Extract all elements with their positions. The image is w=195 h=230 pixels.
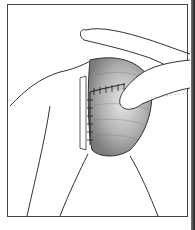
page-edge-shadow bbox=[191, 0, 195, 230]
shoulder-illustration bbox=[0, 0, 195, 230]
illustration-frame bbox=[0, 0, 195, 230]
